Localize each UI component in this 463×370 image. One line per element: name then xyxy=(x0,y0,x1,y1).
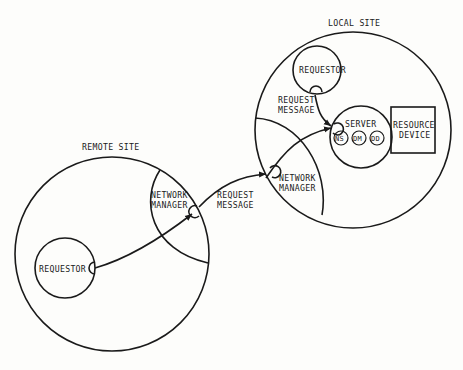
resource-device-label-2: DEVICE xyxy=(399,130,430,140)
local-network-manager-label-1: NETWORK xyxy=(279,173,316,183)
remote-network-manager-label-2: MANAGER xyxy=(151,200,188,210)
local-network-manager-label-2: MANAGER xyxy=(279,183,316,193)
local-site: LOCAL SITE NETWORK MANAGER REQUESTOR REQ… xyxy=(255,18,451,228)
local-site-label: LOCAL SITE xyxy=(328,18,380,28)
local-requestor-label: REQUESTOR xyxy=(299,65,346,75)
local-request-arrow xyxy=(315,95,331,126)
remote-request-arrow xyxy=(95,214,192,268)
distributed-request-diagram: LOCAL SITE NETWORK MANAGER REQUESTOR REQ… xyxy=(0,0,463,370)
local-network-manager-port xyxy=(270,166,281,178)
server-port xyxy=(333,123,343,135)
ns-label: NS xyxy=(335,135,344,143)
local-requestor-port xyxy=(310,86,322,92)
remote-network-manager-label-1: NETWORK xyxy=(151,190,188,200)
remote-site-boundary xyxy=(15,157,209,351)
local-network-manager-boundary xyxy=(255,118,323,215)
inter-site-request-message-2: MESSAGE xyxy=(217,200,254,210)
dd-label: DD xyxy=(371,135,380,143)
remote-site-label: REMOTE SITE xyxy=(82,142,140,152)
inter-site-message: REQUEST MESSAGE xyxy=(199,174,266,210)
local-request-message-1: REQUEST xyxy=(278,95,315,105)
local-request-message-2: MESSAGE xyxy=(278,105,315,115)
inter-site-request-message-1: REQUEST xyxy=(217,190,254,200)
remote-requestor-label: REQUESTOR xyxy=(39,264,86,274)
forward-arrow xyxy=(266,128,331,178)
server-label: SERVER xyxy=(345,119,376,129)
remote-site: REMOTE SITE NETWORK MANAGER REQUESTOR xyxy=(15,142,209,351)
resource-device-label-1: RESOURCE xyxy=(393,120,435,130)
dm-label: DM xyxy=(353,135,362,143)
